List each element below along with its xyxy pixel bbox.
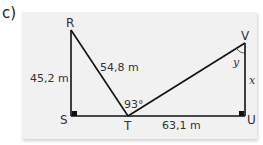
vertex-label-R: R (66, 16, 74, 30)
geometry-figure: R V S T U 45,2 m 54,8 m 93° 63,1 m y x (0, 0, 263, 145)
length-label-RT: 54,8 m (100, 61, 139, 74)
length-label-RS: 45,2 m (30, 72, 69, 85)
segment-TV (128, 43, 245, 116)
vertex-label-V: V (241, 29, 250, 43)
vertex-label-U: U (247, 113, 256, 127)
right-angle-marker-S (72, 111, 77, 116)
angle-label-T: 93° (124, 98, 144, 111)
right-angle-marker-U (239, 111, 244, 116)
angle-arc-V (237, 48, 246, 53)
unknown-label-x: x (249, 74, 256, 87)
vertex-label-T: T (123, 119, 132, 133)
length-label-TU: 63,1 m (162, 119, 201, 132)
unknown-label-y: y (232, 56, 240, 69)
vertex-label-S: S (60, 113, 68, 127)
